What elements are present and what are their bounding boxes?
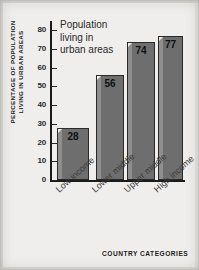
chart-image: PERCENTAGE OF POPULATION LIVING IN URBAN… <box>0 0 199 270</box>
bar-value-label: 77 <box>159 40 182 50</box>
y-axis-title-line-2: LIVING IN URBAN AREAS <box>17 7 25 137</box>
bar-highlight-edge <box>97 76 101 179</box>
y-tick-label-text: 0 <box>28 176 46 184</box>
y-axis-title: PERCENTAGE OF POPULATION LIVING IN URBAN… <box>9 7 25 137</box>
y-axis-title-line-1: PERCENTAGE OF POPULATION <box>9 7 17 137</box>
y-tick-label-text: 50 <box>28 82 46 90</box>
y-tick-label-30: 30 <box>28 120 46 128</box>
y-tick-50 <box>52 86 57 87</box>
y-tick-label-50: 50 <box>28 82 46 90</box>
y-tick-70 <box>52 49 57 50</box>
annotation-line-1: Population <box>60 19 113 32</box>
y-tick-label-text: 10 <box>28 157 46 165</box>
y-tick-label-text: 70 <box>28 45 46 53</box>
chart-annotation: Population living in urban areas <box>60 19 113 57</box>
y-tick-label-text: 40 <box>28 101 46 109</box>
y-axis-line <box>50 21 52 181</box>
y-tick-80 <box>52 30 57 31</box>
y-tick-label-80: 80 <box>28 26 46 34</box>
y-tick-label-40: 40 <box>28 101 46 109</box>
bar-value-label: 74 <box>128 46 154 56</box>
y-tick-30 <box>52 124 57 125</box>
y-tick-label-text: 20 <box>28 139 46 147</box>
y-tick-label-20: 20 <box>28 139 46 147</box>
y-tick-label-60: 60 <box>28 64 46 72</box>
y-tick-label-10: 10 <box>28 157 46 165</box>
x-axis-title: COUNTRY CATEGORIES <box>102 250 188 257</box>
y-tick-label-70: 70 <box>28 45 46 53</box>
bar-chart-plot: PERCENTAGE OF POPULATION LIVING IN URBAN… <box>0 0 199 270</box>
bar-value-label: 28 <box>58 132 88 142</box>
bar-value-label: 56 <box>97 79 123 89</box>
y-tick-label-text: 60 <box>28 64 46 72</box>
annotation-line-2: living in <box>60 32 113 45</box>
y-tick-label-text: 80 <box>28 26 46 34</box>
y-tick-60 <box>52 68 57 69</box>
y-tick-label-0: 0 <box>28 176 46 184</box>
y-tick-40 <box>52 105 57 106</box>
y-tick-0 <box>52 180 57 181</box>
y-tick-label-text: 30 <box>28 120 46 128</box>
annotation-line-3: urban areas <box>60 44 113 57</box>
